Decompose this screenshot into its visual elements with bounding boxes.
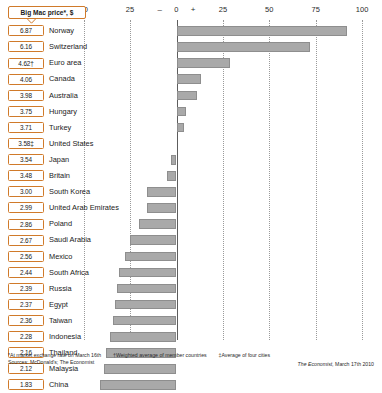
price-value: 2.67: [8, 235, 44, 246]
axis-tick-25: 25: [219, 5, 228, 14]
price-value: 3.58‡: [8, 138, 44, 149]
chart-row: 2.39Russia: [0, 281, 382, 297]
price-value: 2.86: [8, 219, 44, 230]
country-label: Saudi Arabia: [49, 235, 91, 244]
chart-row: 1.83China: [0, 377, 382, 393]
source-credit-publication: The Economist,: [298, 361, 334, 367]
price-value: 3.48: [8, 170, 44, 181]
price-column-header: Big Mac price*, $: [8, 6, 86, 19]
chart-row: 2.36Taiwan: [0, 313, 382, 329]
price-value: 2.37: [8, 299, 44, 310]
valuation-bar: [100, 380, 176, 390]
valuation-bar: [177, 74, 201, 84]
valuation-bar: [177, 58, 231, 68]
price-value: 3.71: [8, 122, 44, 133]
country-label: Japan: [49, 155, 69, 164]
axis-tick-25: 25: [126, 5, 135, 14]
country-label: Taiwan: [49, 316, 72, 325]
chart-row: 6.16Switzerland: [0, 39, 382, 55]
chart-row: 3.75Hungary: [0, 103, 382, 119]
valuation-bar: [117, 284, 176, 294]
chart-row: 3.71Turkey: [0, 120, 382, 136]
price-value: 3.75: [8, 106, 44, 117]
country-label: Turkey: [49, 123, 71, 132]
chart-row: 3.98Australia: [0, 87, 382, 103]
country-label: Russia: [49, 284, 72, 293]
footnote-weighted-average: †Weighted average of member countries: [113, 352, 207, 358]
chart-row: 3.54Japan: [0, 152, 382, 168]
footnote-line-1: *At market exchange rate on March 16th †…: [8, 352, 374, 359]
valuation-bar: [147, 203, 177, 213]
footnote-four-cities: ‡Average of four cities: [219, 352, 271, 358]
chart-row: 2.56Mexico: [0, 248, 382, 264]
price-value: 6.16: [8, 41, 44, 52]
axis-tick-75: 75: [311, 5, 320, 14]
country-label: Poland: [49, 219, 72, 228]
country-label: Switzerland: [49, 42, 87, 51]
chart-row: 2.86Poland: [0, 216, 382, 232]
country-label: Norway: [49, 26, 74, 35]
price-value: 2.36: [8, 315, 44, 326]
valuation-bar: [177, 123, 184, 133]
chart-row: 3.00South Korea: [0, 184, 382, 200]
valuation-bar: [115, 300, 176, 310]
valuation-bar: [177, 42, 311, 52]
country-label: Mexico: [49, 252, 72, 261]
chart-row: 2.44South Africa: [0, 264, 382, 280]
country-label: Australia: [49, 91, 78, 100]
country-label: Hungary: [49, 107, 77, 116]
price-value: 1.83: [8, 379, 44, 390]
valuation-bar: [113, 316, 176, 326]
chart-row: 4.62†Euro area: [0, 55, 382, 71]
valuation-bar: [110, 332, 177, 342]
chart-row: 2.28Indonesia: [0, 329, 382, 345]
country-label: South Korea: [49, 187, 90, 196]
axis-tick-sign: +: [191, 5, 196, 14]
country-label: South Africa: [49, 268, 89, 277]
country-label: Indonesia: [49, 332, 81, 341]
chart-row: 2.99United Arab Emirates: [0, 200, 382, 216]
country-label: Euro area: [49, 58, 81, 67]
price-value: 3.54: [8, 154, 44, 165]
valuation-bar: [177, 107, 186, 117]
valuation-bar: [167, 171, 176, 181]
chart-row: 2.67Saudi Arabia: [0, 232, 382, 248]
footnote-exchange-rate: *At market exchange rate on March 16th: [8, 352, 101, 358]
valuation-bar: [125, 252, 177, 262]
country-label: Canada: [49, 74, 75, 83]
valuation-bar: [177, 91, 197, 101]
price-value: 2.39: [8, 283, 44, 294]
price-value: 4.62†: [8, 58, 44, 69]
price-value: 4.06: [8, 74, 44, 85]
country-label: Egypt: [49, 300, 68, 309]
axis-tick-0: 0: [174, 5, 178, 14]
valuation-bar: [147, 187, 177, 197]
country-label: United States: [49, 139, 93, 148]
chart-row: 6.87Norway: [0, 23, 382, 39]
axis-tick-50: 50: [265, 5, 274, 14]
axis-tick-100: 100: [356, 5, 369, 14]
valuation-bar: [171, 155, 177, 165]
price-value: 2.56: [8, 251, 44, 262]
price-value: 2.44: [8, 267, 44, 278]
country-label: Britain: [49, 171, 70, 180]
country-label: United Arab Emirates: [49, 203, 119, 212]
chart-row: 4.06Canada: [0, 71, 382, 87]
source-credit-date: March 17th 2010: [334, 361, 374, 367]
valuation-bar: [130, 235, 176, 245]
price-value: 2.99: [8, 202, 44, 213]
price-value: 2.28: [8, 331, 44, 342]
price-value: 3.98: [8, 90, 44, 101]
price-value: 6.87: [8, 25, 44, 36]
chart-row: 2.37Egypt: [0, 297, 382, 313]
country-label: China: [49, 380, 68, 389]
price-value: 3.00: [8, 186, 44, 197]
chart-row: 3.58‡United States: [0, 136, 382, 152]
chart-rows: 6.87Norway6.16Switzerland4.62†Euro area4…: [0, 23, 382, 393]
axis-tick-sign: –: [158, 5, 162, 14]
source-credit: The Economist, March 17th 2010: [298, 361, 374, 367]
valuation-bar: [139, 219, 176, 229]
chart-row: 3.48Britain: [0, 168, 382, 184]
valuation-bar: [119, 268, 177, 278]
